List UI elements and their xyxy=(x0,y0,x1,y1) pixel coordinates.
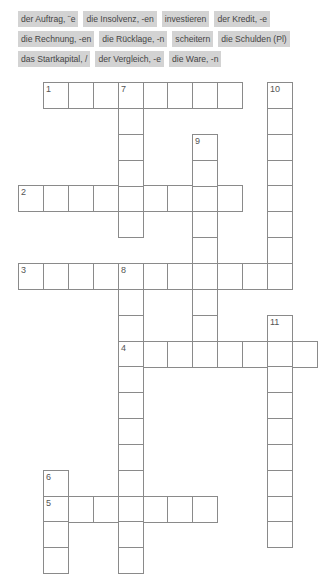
crossword-cell[interactable] xyxy=(267,160,293,187)
clue-number: 3 xyxy=(21,265,26,275)
clue-number: 6 xyxy=(46,472,51,482)
crossword-cell[interactable] xyxy=(192,341,218,368)
crossword-cell[interactable] xyxy=(167,82,193,109)
clue-number: 7 xyxy=(121,84,126,94)
crossword-cell[interactable] xyxy=(118,315,144,342)
crossword-cell[interactable] xyxy=(118,418,144,445)
crossword-cell[interactable] xyxy=(68,185,94,212)
crossword-cell[interactable] xyxy=(118,134,144,161)
crossword-cell[interactable]: 4 xyxy=(118,341,144,368)
crossword-grid: 1723845691011 xyxy=(0,0,326,587)
crossword-cell[interactable] xyxy=(43,185,69,212)
crossword-cell[interactable] xyxy=(118,547,144,574)
crossword-cell[interactable] xyxy=(167,341,193,368)
crossword-cell[interactable] xyxy=(68,496,94,523)
crossword-cell[interactable] xyxy=(267,366,293,393)
crossword-cell[interactable] xyxy=(118,366,144,393)
crossword-cell[interactable] xyxy=(267,444,293,471)
clue-number: 10 xyxy=(270,84,280,94)
clue-number: 5 xyxy=(46,498,51,508)
crossword-cell[interactable] xyxy=(143,496,169,523)
crossword-cell[interactable] xyxy=(192,160,218,187)
crossword-cell[interactable] xyxy=(217,263,243,290)
clue-number: 8 xyxy=(121,265,126,275)
crossword-cell[interactable] xyxy=(192,82,218,109)
crossword-cell[interactable] xyxy=(118,496,144,523)
crossword-cell[interactable] xyxy=(217,185,243,212)
crossword-cell[interactable] xyxy=(143,263,169,290)
crossword-cell[interactable]: 2 xyxy=(18,185,44,212)
crossword-cell[interactable] xyxy=(192,289,218,316)
crossword-cell[interactable] xyxy=(217,82,243,109)
crossword-cell[interactable] xyxy=(118,211,144,238)
crossword-cell[interactable] xyxy=(192,315,218,342)
crossword-cell[interactable] xyxy=(192,211,218,238)
crossword-cell[interactable] xyxy=(267,134,293,161)
clue-number: 11 xyxy=(270,317,279,327)
crossword-cell[interactable] xyxy=(192,185,218,212)
crossword-cell[interactable]: 8 xyxy=(118,263,144,290)
crossword-cell[interactable] xyxy=(267,392,293,419)
crossword-cell[interactable] xyxy=(118,444,144,471)
crossword-cell[interactable]: 1 xyxy=(43,82,69,109)
crossword-cell[interactable] xyxy=(267,496,293,523)
crossword-cell[interactable] xyxy=(68,263,94,290)
crossword-cell[interactable]: 10 xyxy=(267,82,293,109)
crossword-cell[interactable] xyxy=(267,470,293,497)
crossword-cell[interactable] xyxy=(267,341,293,368)
crossword-cell[interactable] xyxy=(167,185,193,212)
crossword-cell[interactable] xyxy=(68,82,94,109)
crossword-cell[interactable] xyxy=(93,185,119,212)
crossword-cell[interactable] xyxy=(242,341,268,368)
clue-number: 4 xyxy=(121,343,126,353)
crossword-cell[interactable] xyxy=(292,341,318,368)
crossword-cell[interactable]: 11 xyxy=(267,315,293,342)
crossword-cell[interactable] xyxy=(267,185,293,212)
crossword-cell[interactable] xyxy=(118,185,144,212)
crossword-cell[interactable]: 5 xyxy=(43,496,69,523)
clue-number: 1 xyxy=(46,84,51,94)
crossword-cell[interactable] xyxy=(143,185,169,212)
crossword-cell[interactable] xyxy=(267,521,293,548)
crossword-cell[interactable] xyxy=(242,263,268,290)
crossword-cell[interactable] xyxy=(192,496,218,523)
crossword-cell[interactable]: 3 xyxy=(18,263,44,290)
crossword-cell[interactable] xyxy=(43,547,69,574)
clue-number: 9 xyxy=(195,136,200,146)
crossword-cell[interactable] xyxy=(267,108,293,135)
crossword-cell[interactable]: 6 xyxy=(43,470,69,497)
crossword-cell[interactable] xyxy=(143,82,169,109)
crossword-cell[interactable] xyxy=(192,263,218,290)
crossword-cell[interactable] xyxy=(192,237,218,264)
crossword-cell[interactable] xyxy=(267,263,293,290)
crossword-cell[interactable] xyxy=(43,263,69,290)
crossword-cell[interactable]: 9 xyxy=(192,134,218,161)
crossword-cell[interactable] xyxy=(93,263,119,290)
crossword-cell[interactable] xyxy=(93,496,119,523)
crossword-cell[interactable] xyxy=(267,237,293,264)
crossword-cell[interactable] xyxy=(143,341,169,368)
crossword-cell[interactable] xyxy=(118,160,144,187)
crossword-cell[interactable] xyxy=(118,289,144,316)
crossword-cell[interactable] xyxy=(167,496,193,523)
crossword-cell[interactable] xyxy=(43,521,69,548)
crossword-cell[interactable] xyxy=(118,470,144,497)
clue-number: 2 xyxy=(21,187,26,197)
crossword-cell[interactable] xyxy=(118,521,144,548)
crossword-cell[interactable] xyxy=(118,392,144,419)
crossword-cell[interactable] xyxy=(217,341,243,368)
crossword-cell[interactable] xyxy=(118,108,144,135)
crossword-cell[interactable] xyxy=(267,418,293,445)
crossword-cell[interactable]: 7 xyxy=(118,82,144,109)
crossword-cell[interactable] xyxy=(93,82,119,109)
crossword-cell[interactable] xyxy=(167,263,193,290)
crossword-cell[interactable] xyxy=(267,211,293,238)
